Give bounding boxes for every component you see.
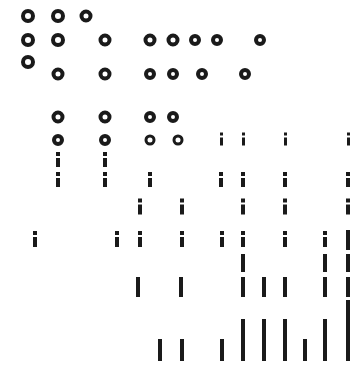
bar-glyph bbox=[346, 254, 350, 272]
i-glyph-dot bbox=[283, 199, 287, 203]
i-glyph-stem bbox=[103, 158, 107, 167]
ring-glyph bbox=[52, 134, 64, 146]
i-glyph-dot bbox=[283, 231, 287, 235]
bar-glyph bbox=[136, 277, 140, 297]
ring-glyph bbox=[144, 111, 156, 123]
ring-glyph bbox=[189, 34, 201, 46]
ring-glyph bbox=[21, 55, 35, 69]
i-glyph bbox=[33, 231, 37, 249]
i-glyph bbox=[241, 231, 245, 249]
i-glyph-stem bbox=[241, 178, 245, 187]
bar-glyph bbox=[262, 339, 266, 361]
ring-glyph bbox=[99, 111, 112, 124]
i-glyph bbox=[284, 133, 287, 148]
bar-glyph bbox=[323, 339, 327, 361]
i-glyph bbox=[103, 152, 107, 168]
i-glyph-dot bbox=[241, 172, 245, 176]
bar-glyph bbox=[283, 319, 287, 341]
i-glyph-stem bbox=[241, 237, 245, 247]
i-glyph bbox=[346, 199, 350, 216]
i-glyph-stem bbox=[180, 205, 184, 215]
ring-glyph bbox=[196, 68, 208, 80]
ring-glyph bbox=[99, 68, 112, 81]
i-glyph-stem bbox=[242, 138, 245, 146]
bar-glyph bbox=[283, 339, 287, 361]
i-glyph-dot bbox=[346, 199, 350, 203]
bar-glyph bbox=[262, 277, 266, 297]
ring-glyph bbox=[99, 134, 111, 146]
i-glyph-dot bbox=[138, 231, 142, 235]
ring-glyph bbox=[21, 9, 35, 23]
bar-glyph bbox=[346, 300, 350, 320]
i-glyph bbox=[148, 172, 152, 188]
i-glyph-stem bbox=[33, 237, 37, 247]
i-glyph bbox=[347, 133, 350, 148]
ring-glyph bbox=[80, 10, 93, 23]
bar-glyph bbox=[241, 254, 245, 272]
i-glyph-stem bbox=[180, 237, 184, 247]
i-glyph-stem bbox=[219, 178, 223, 187]
bar-glyph bbox=[220, 339, 224, 361]
i-glyph-dot bbox=[283, 172, 287, 176]
i-glyph-dot bbox=[220, 231, 224, 235]
i-glyph-stem bbox=[283, 205, 287, 215]
bar-glyph bbox=[346, 230, 350, 250]
ring-glyph bbox=[239, 68, 251, 80]
ring-glyph bbox=[51, 9, 65, 23]
i-glyph-dot bbox=[242, 133, 245, 136]
i-glyph bbox=[219, 172, 223, 188]
ring-glyph bbox=[167, 34, 180, 47]
i-glyph-stem bbox=[220, 237, 224, 247]
bar-glyph bbox=[283, 277, 287, 297]
ring-glyph bbox=[52, 111, 65, 124]
i-glyph-stem bbox=[148, 178, 152, 187]
i-glyph-dot bbox=[115, 231, 119, 235]
ring-glyph bbox=[145, 135, 156, 146]
i-glyph-stem bbox=[56, 158, 60, 167]
i-glyph bbox=[241, 199, 245, 216]
i-glyph bbox=[220, 231, 224, 249]
ring-glyph bbox=[52, 68, 65, 81]
i-glyph-stem bbox=[138, 237, 142, 247]
i-glyph bbox=[56, 172, 60, 188]
i-glyph-dot bbox=[241, 231, 245, 235]
ring-glyph bbox=[144, 68, 156, 80]
bar-glyph bbox=[346, 319, 350, 341]
i-glyph-dot bbox=[103, 152, 107, 156]
bar-glyph bbox=[158, 339, 162, 361]
ring-glyph bbox=[51, 33, 65, 47]
i-glyph-stem bbox=[115, 237, 119, 247]
i-glyph bbox=[56, 152, 60, 168]
i-glyph-stem bbox=[220, 138, 223, 146]
i-glyph-dot bbox=[148, 172, 152, 176]
bar-glyph bbox=[241, 277, 245, 297]
bar-glyph bbox=[303, 339, 307, 361]
i-glyph bbox=[283, 172, 287, 188]
i-glyph bbox=[103, 172, 107, 188]
i-glyph bbox=[115, 231, 119, 249]
bar-glyph bbox=[180, 339, 184, 361]
ring-glyph bbox=[167, 111, 179, 123]
i-glyph-dot bbox=[220, 133, 223, 136]
bar-glyph bbox=[262, 319, 266, 341]
bar-glyph bbox=[323, 254, 327, 272]
i-glyph-dot bbox=[284, 133, 287, 136]
i-glyph-dot bbox=[103, 172, 107, 176]
bar-glyph bbox=[323, 277, 327, 297]
ring-glyph bbox=[173, 135, 184, 146]
i-glyph bbox=[323, 231, 327, 249]
ring-glyph bbox=[144, 34, 157, 47]
bar-glyph bbox=[323, 319, 327, 341]
bar-glyph bbox=[346, 277, 350, 297]
i-glyph-stem bbox=[346, 178, 350, 187]
i-glyph-stem bbox=[347, 138, 350, 146]
i-glyph-stem bbox=[284, 138, 287, 146]
ring-glyph bbox=[99, 34, 112, 47]
i-glyph-stem bbox=[283, 178, 287, 187]
i-glyph bbox=[346, 172, 350, 188]
i-glyph bbox=[138, 199, 142, 216]
i-glyph-dot bbox=[347, 133, 350, 136]
i-glyph bbox=[220, 133, 223, 148]
i-glyph-stem bbox=[56, 178, 60, 187]
glyph-matrix-canvas bbox=[0, 0, 360, 368]
